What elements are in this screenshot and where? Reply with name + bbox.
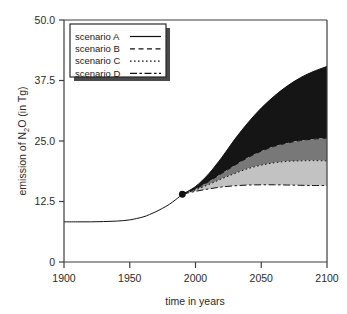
figure-container: 012.525.037.550.0 19001950200020502100 t… bbox=[0, 0, 347, 314]
branch-point-marker bbox=[179, 191, 186, 198]
x-tick-label-4: 2100 bbox=[315, 272, 339, 284]
y-axis-title-pre: emission of N bbox=[16, 132, 28, 196]
legend-label-3: scenario C bbox=[75, 55, 121, 66]
x-tick-label-0: 1900 bbox=[52, 272, 76, 284]
y-tick-label-2: 25.0 bbox=[35, 135, 56, 147]
x-tick-label-2: 2000 bbox=[184, 272, 208, 284]
legend-label-1: scenario A bbox=[75, 31, 120, 42]
legend-label-2: scenario B bbox=[75, 43, 120, 54]
x-tick-label-3: 2050 bbox=[250, 272, 274, 284]
x-axis-title: time in years bbox=[165, 295, 225, 307]
legend[interactable]: scenario Ascenario Bscenario Cscenario D bbox=[70, 24, 170, 81]
y-tick-label-3: 37.5 bbox=[35, 74, 56, 86]
y-axis-title-post: O (in Tg) bbox=[16, 86, 28, 127]
x-tick-label-1: 1950 bbox=[118, 272, 142, 284]
legend-label-4: scenario D bbox=[75, 68, 121, 79]
emission-scenarios-chart: 012.525.037.550.0 19001950200020502100 t… bbox=[0, 0, 347, 314]
y-tick-label-0: 0 bbox=[49, 256, 55, 268]
y-tick-label-1: 12.5 bbox=[35, 195, 56, 207]
y-tick-label-4: 50.0 bbox=[35, 14, 56, 26]
